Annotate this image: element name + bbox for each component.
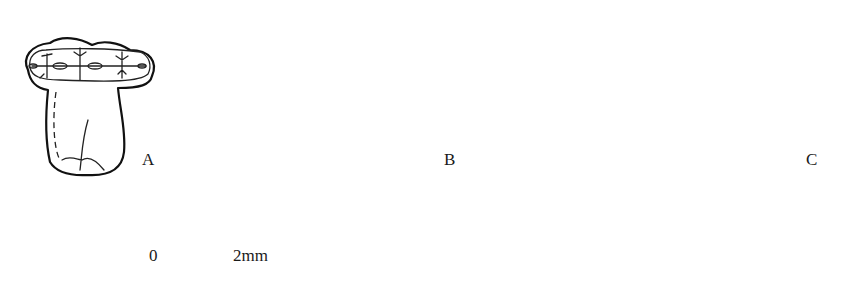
figure-tooth-plates: A B (0, 0, 844, 305)
scale-bar-end-label: 2mm (233, 246, 268, 266)
scale-bar-start-label: 0 (149, 246, 158, 266)
panel-label-a: A (142, 150, 154, 170)
panel-label-b: B (444, 150, 455, 170)
panel-label-c: C (806, 150, 817, 170)
panel-a-drawing (26, 38, 154, 175)
